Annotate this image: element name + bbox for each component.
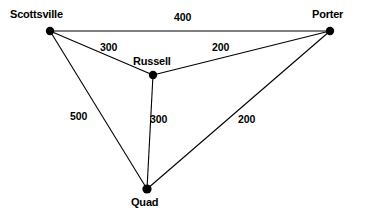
edge-label-scottsville-quad: 500: [70, 110, 87, 122]
edge-russell-porter: [153, 31, 330, 75]
node-group: [46, 27, 334, 194]
graph-svg: [0, 0, 368, 216]
edge-label-russell-porter: 200: [212, 41, 229, 53]
node-scottsville[interactable]: [46, 27, 54, 35]
edge-label-russell-quad: 300: [150, 113, 167, 125]
edge-scottsville-russell: [50, 31, 153, 75]
graph-diagram-canvas: Scottsville Porter Russell Quad 400 300 …: [0, 0, 368, 216]
edge-label-quad-porter: 200: [238, 113, 255, 125]
node-porter[interactable]: [326, 27, 334, 35]
node-label-scottsville: Scottsville: [10, 8, 63, 20]
node-label-quad: Quad: [131, 196, 158, 208]
edge-label-scottsville-russell: 300: [100, 41, 117, 53]
node-label-russell: Russell: [133, 55, 171, 67]
node-quad[interactable]: [142, 184, 151, 193]
node-russell[interactable]: [149, 71, 157, 79]
edge-label-scottsville-porter: 400: [174, 11, 191, 23]
node-label-porter: Porter: [312, 8, 343, 20]
edge-group: [50, 31, 330, 189]
edge-quad-porter: [147, 31, 330, 189]
edge-russell-quad: [147, 75, 153, 189]
